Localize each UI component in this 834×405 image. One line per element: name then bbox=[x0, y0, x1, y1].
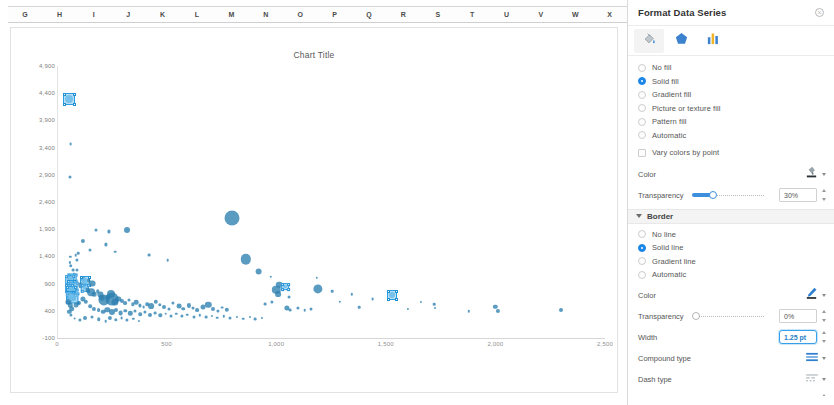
data-point[interactable] bbox=[297, 306, 300, 309]
border-width-stepper[interactable] bbox=[822, 331, 826, 343]
dash-type-row[interactable]: Dash type bbox=[628, 369, 834, 390]
size-and-properties-tab[interactable] bbox=[698, 29, 728, 53]
data-point[interactable] bbox=[138, 312, 142, 316]
column-header-v[interactable]: V bbox=[524, 7, 558, 22]
data-point[interactable] bbox=[167, 308, 170, 311]
data-point[interactable] bbox=[108, 230, 111, 233]
data-point[interactable] bbox=[351, 293, 353, 295]
selection-handle[interactable] bbox=[63, 103, 66, 106]
data-point[interactable] bbox=[254, 318, 257, 321]
data-point[interactable] bbox=[97, 317, 101, 321]
radio-button[interactable] bbox=[638, 118, 646, 126]
data-point[interactable] bbox=[162, 305, 166, 309]
data-point[interactable] bbox=[76, 269, 79, 272]
selection-handle[interactable] bbox=[67, 292, 70, 295]
slider-thumb[interactable] bbox=[692, 312, 700, 320]
column-header-r[interactable]: R bbox=[386, 7, 420, 22]
data-point[interactable] bbox=[73, 317, 76, 320]
data-point[interactable] bbox=[407, 308, 409, 310]
data-point[interactable] bbox=[84, 300, 88, 304]
data-point[interactable] bbox=[270, 301, 273, 304]
data-point[interactable] bbox=[225, 210, 240, 225]
data-point[interactable] bbox=[118, 311, 123, 316]
data-point[interactable] bbox=[186, 313, 189, 316]
data-point[interactable] bbox=[249, 316, 251, 318]
effects-tab[interactable] bbox=[666, 29, 696, 53]
data-point[interactable] bbox=[217, 309, 220, 312]
data-point[interactable] bbox=[134, 310, 137, 313]
data-point[interactable] bbox=[221, 306, 224, 309]
data-point[interactable] bbox=[339, 301, 341, 303]
data-point[interactable] bbox=[433, 303, 436, 306]
radio-button[interactable] bbox=[638, 91, 646, 99]
data-point[interactable] bbox=[138, 304, 141, 307]
stepper-up-icon[interactable] bbox=[822, 310, 826, 313]
vary-colors-by-point-row[interactable]: Vary colors by point bbox=[628, 146, 834, 160]
column-header-w[interactable]: W bbox=[558, 7, 592, 22]
data-point[interactable] bbox=[310, 307, 313, 310]
border-transparency-stepper[interactable] bbox=[822, 310, 826, 322]
radio-button[interactable] bbox=[638, 104, 646, 112]
data-point[interactable] bbox=[164, 312, 167, 315]
data-point[interactable] bbox=[153, 300, 157, 304]
dash-type-chevron-down-icon[interactable] bbox=[822, 378, 826, 381]
border-width-input[interactable]: 1.25 pt bbox=[779, 330, 817, 344]
selection-handle[interactable] bbox=[395, 290, 398, 293]
column-header-p[interactable]: P bbox=[318, 7, 352, 22]
selection-handle[interactable] bbox=[73, 103, 76, 106]
column-header-i[interactable]: I bbox=[77, 7, 111, 22]
radio-button[interactable] bbox=[638, 244, 646, 252]
fill-color-chevron-down-icon[interactable] bbox=[822, 173, 826, 176]
data-point[interactable] bbox=[132, 318, 134, 320]
data-point[interactable] bbox=[331, 290, 334, 293]
fill-transparency-slider[interactable] bbox=[692, 191, 764, 200]
data-point[interactable] bbox=[159, 313, 162, 316]
fill-option-no-fill[interactable]: No fill bbox=[628, 61, 834, 75]
fill-transparency-row[interactable]: Transparency 30% bbox=[628, 185, 834, 206]
selection-handle[interactable] bbox=[73, 93, 76, 96]
stepper-down-icon[interactable] bbox=[822, 340, 826, 343]
line-color-icon[interactable] bbox=[804, 286, 819, 304]
data-point[interactable] bbox=[73, 303, 78, 308]
data-point[interactable] bbox=[211, 307, 215, 311]
column-header-k[interactable]: K bbox=[146, 7, 180, 22]
data-point[interactable] bbox=[72, 269, 75, 272]
data-point[interactable] bbox=[124, 227, 130, 233]
radio-button[interactable] bbox=[638, 77, 646, 85]
radio-button[interactable] bbox=[638, 257, 646, 265]
data-point[interactable] bbox=[180, 315, 183, 318]
stepper-down-icon[interactable] bbox=[822, 198, 826, 201]
compound-type-chevron-down-icon[interactable] bbox=[822, 357, 826, 360]
radio-button[interactable] bbox=[638, 230, 646, 238]
stepper-up-icon[interactable] bbox=[822, 331, 826, 334]
data-point[interactable] bbox=[205, 316, 208, 319]
selection-handle[interactable] bbox=[387, 290, 390, 293]
compound-type-row[interactable]: Compound type bbox=[628, 348, 834, 369]
chevron-down-icon[interactable] bbox=[636, 214, 642, 218]
border-option-gradient-line[interactable]: Gradient line bbox=[628, 255, 834, 269]
dash-type-control[interactable] bbox=[805, 370, 826, 388]
data-point[interactable] bbox=[175, 313, 177, 315]
data-point[interactable] bbox=[154, 312, 157, 315]
data-point[interactable] bbox=[468, 310, 470, 312]
radio-button[interactable] bbox=[638, 271, 646, 279]
data-point[interactable] bbox=[559, 308, 563, 312]
close-icon[interactable]: × bbox=[815, 8, 824, 17]
data-point[interactable] bbox=[148, 304, 154, 310]
data-point[interactable] bbox=[69, 256, 71, 258]
data-point[interactable] bbox=[158, 303, 161, 306]
selection-handle[interactable] bbox=[387, 298, 390, 301]
plot-area[interactable] bbox=[57, 66, 605, 338]
border-color-control[interactable] bbox=[804, 286, 826, 304]
data-point[interactable] bbox=[316, 276, 318, 278]
data-point[interactable] bbox=[69, 314, 72, 317]
column-header-u[interactable]: U bbox=[489, 7, 523, 22]
column-header-h[interactable]: H bbox=[42, 7, 76, 22]
selection-handle-box[interactable] bbox=[281, 283, 289, 291]
data-point[interactable] bbox=[144, 310, 147, 313]
fill-transparency-value-group[interactable]: 30% bbox=[779, 188, 826, 202]
fill-option-pattern-fill[interactable]: Pattern fill bbox=[628, 115, 834, 129]
selection-handle[interactable] bbox=[76, 292, 79, 295]
data-point[interactable] bbox=[128, 298, 131, 301]
data-point[interactable] bbox=[241, 254, 251, 264]
